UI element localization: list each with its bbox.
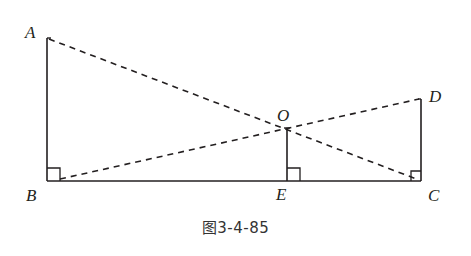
label-O: O [277,106,289,125]
figure-caption: 图3-4-85 [0,216,471,237]
right-angle-marker-B [47,168,60,181]
segment-AC-dashed [49,39,419,180]
label-D: D [428,87,442,106]
label-A: A [24,23,36,42]
right-angle-marker-E [287,168,300,181]
label-B: B [26,186,37,205]
right-angle-marker-C [411,171,421,181]
label-C: C [428,186,440,205]
label-E: E [275,185,287,204]
